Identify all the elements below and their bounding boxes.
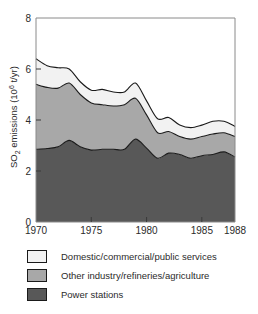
legend-swatch-power-stations <box>27 288 47 301</box>
legend-label-domestic: Domestic/commercial/public services <box>61 251 217 262</box>
y-tick-label: 6 <box>25 64 31 75</box>
legend-item-other-industry: Other industry/refineries/agriculture <box>27 266 251 285</box>
y-axis-label: SO2 emissions (106 t/yr) <box>8 66 21 168</box>
y-tick-label: 4 <box>25 115 31 126</box>
legend-swatch-domestic <box>27 250 47 263</box>
chart-legend: Domestic/commercial/public services Othe… <box>27 247 251 304</box>
ylabel-prefix: SO <box>8 154 19 168</box>
chart-figure: 02468 19701975198019851988 SO2 emissions… <box>0 0 258 314</box>
legend-label-power-stations: Power stations <box>61 289 123 300</box>
x-tick-label: 1985 <box>191 225 214 236</box>
legend-label-other-industry: Other industry/refineries/agriculture <box>61 270 209 281</box>
legend-item-power-stations: Power stations <box>27 285 251 304</box>
x-tick-label: 1970 <box>25 225 48 236</box>
x-tick-label: 1975 <box>80 225 103 236</box>
legend-swatch-other-industry <box>27 269 47 282</box>
x-tick-label: 1980 <box>135 225 158 236</box>
legend-item-domestic: Domestic/commercial/public services <box>27 247 251 266</box>
ylabel-middle: emissions (10 <box>8 89 19 150</box>
y-tick-label: 8 <box>25 13 31 24</box>
ylabel-suffix: t/yr) <box>8 66 19 85</box>
x-tick-label: 1988 <box>224 225 247 236</box>
svg-text:SO2 emissions (106 t/yr): SO2 emissions (106 t/yr) <box>8 66 21 168</box>
y-tick-label: 2 <box>25 166 31 177</box>
